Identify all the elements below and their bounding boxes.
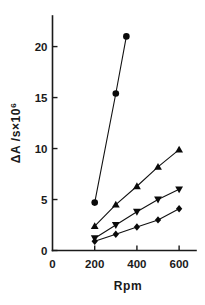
- data-point-triangle-down: [133, 209, 141, 216]
- y-tick-label: 0: [41, 245, 47, 257]
- series-circle: [91, 33, 129, 206]
- data-point-diamond: [113, 230, 119, 237]
- data-series-layer: [91, 33, 183, 245]
- chart-plot-area: 05101520 0200400600 ΔA /s×106 Rpm: [0, 0, 205, 305]
- data-point-triangle-down: [175, 186, 183, 193]
- svg-text:ΔA /s×106: ΔA /s×106: [9, 103, 23, 163]
- y-tick-label: 15: [35, 92, 48, 104]
- data-point-triangle-up: [175, 146, 183, 153]
- data-point-diamond: [176, 205, 182, 212]
- y-tick-label: 5: [41, 194, 48, 206]
- x-axis-title: Rpm: [114, 279, 142, 293]
- chart-figure: 05101520 0200400600 ΔA /s×106 Rpm: [0, 0, 205, 305]
- x-tick-label: 200: [85, 258, 104, 270]
- data-point-triangle-down: [154, 197, 162, 204]
- data-point-circle: [91, 199, 98, 206]
- y-axis-title: ΔA /s×106: [9, 103, 23, 163]
- data-point-circle: [123, 33, 130, 40]
- data-point-triangle-down: [112, 222, 120, 229]
- y-axis-tick-labels: 05101520: [35, 41, 48, 257]
- data-point-circle: [113, 90, 120, 97]
- x-axis-tick-labels: 0200400600: [49, 258, 188, 270]
- series-triangle-up: [91, 146, 183, 229]
- data-point-diamond: [92, 238, 98, 245]
- data-point-diamond: [134, 223, 140, 230]
- x-tick-label: 0: [49, 258, 55, 270]
- y-tick-label: 10: [35, 143, 48, 155]
- x-tick-label: 600: [170, 258, 189, 270]
- data-point-diamond: [155, 216, 161, 223]
- x-tick-label: 400: [127, 258, 146, 270]
- axes-group: [53, 16, 197, 251]
- y-tick-label: 20: [35, 41, 48, 53]
- series-line: [95, 36, 127, 202]
